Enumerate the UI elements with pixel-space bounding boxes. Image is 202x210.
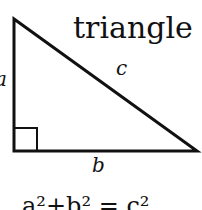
side-label-c: c (116, 56, 127, 80)
side-label-a: a (0, 67, 7, 91)
diagram-title: triangle (73, 10, 193, 45)
triangle-diagram: triangle a c b a²+b² = c² (0, 0, 202, 210)
right-angle-marker (14, 128, 37, 151)
pythagorean-equation: a²+b² = c² (22, 192, 149, 210)
side-label-b: b (92, 153, 105, 177)
